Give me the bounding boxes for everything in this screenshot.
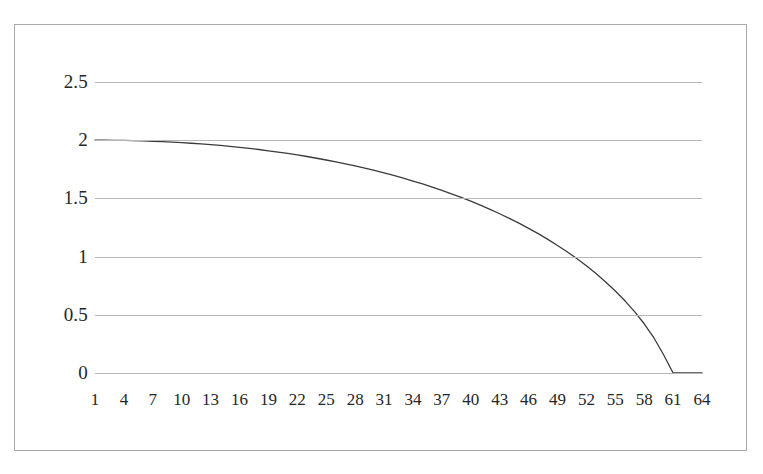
y-tick-label: 0 — [14, 363, 88, 382]
series-line-chart — [95, 82, 702, 373]
plot-area — [95, 82, 702, 373]
y-tick-label: 0.5 — [14, 305, 88, 324]
y-tick-label: 2 — [14, 130, 88, 149]
y-tick-label: 2.5 — [14, 72, 88, 91]
y-tick-label: 1 — [14, 247, 88, 266]
gridline-horizontal — [95, 82, 702, 83]
y-axis-tick-labels: 2.521.510.50 — [14, 24, 88, 451]
y-tick-label: 1.5 — [14, 188, 88, 207]
gridline-horizontal — [95, 198, 702, 199]
gridline-horizontal — [95, 373, 702, 374]
gridline-horizontal — [95, 315, 702, 316]
gridline-horizontal — [95, 257, 702, 258]
chart-root: 2.521.510.50 147101316192225283134374043… — [0, 0, 763, 474]
gridline-horizontal — [95, 140, 702, 141]
